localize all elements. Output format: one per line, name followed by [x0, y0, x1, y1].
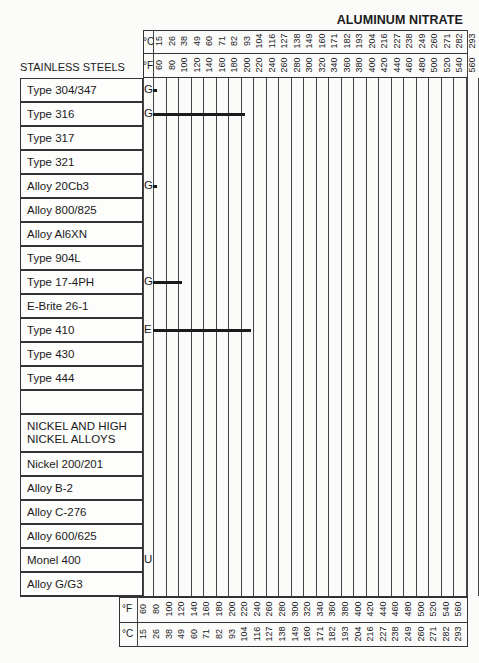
grid-line	[328, 78, 329, 596]
axis-tick: 380	[340, 597, 350, 621]
axis-tick: 138	[277, 622, 287, 646]
axis-tick: 560	[453, 597, 463, 621]
axis-tick: 15	[154, 29, 164, 53]
axis-tick: 182	[342, 29, 352, 53]
axis-tick: 160	[302, 622, 312, 646]
grid-line	[153, 78, 154, 596]
rating-bar	[153, 113, 245, 116]
rating-bar	[153, 89, 157, 92]
axis-tick: 160	[317, 29, 327, 53]
rating-letter: U	[144, 553, 152, 565]
axis-tick: 149	[290, 622, 300, 646]
axis-tick: 116	[267, 29, 277, 53]
axis-tick: 171	[315, 622, 325, 646]
axis-tick: 49	[192, 29, 202, 53]
axis-tick: 49	[176, 622, 186, 646]
axis-tick: 480	[417, 53, 427, 77]
axis-tick: 60	[138, 597, 148, 621]
axis-tick: 38	[164, 622, 174, 646]
axis-tick: 460	[390, 597, 400, 621]
grid-line	[216, 78, 217, 596]
axis-tick: 400	[353, 597, 363, 621]
axis-tick: 280	[277, 597, 287, 621]
axis-tick: 560	[467, 53, 477, 77]
grid-line	[228, 78, 229, 596]
axis-tick: 138	[292, 29, 302, 53]
grid-left-border	[143, 78, 144, 596]
axis-tick: 360	[327, 597, 337, 621]
axis-tick: 216	[379, 29, 389, 53]
axis-tick: 80	[151, 597, 161, 621]
axis-tick: 182	[327, 622, 337, 646]
axis-tick: 249	[417, 29, 427, 53]
axis-tick: 300	[304, 53, 314, 77]
axis-tick: 271	[428, 622, 438, 646]
row-label: Type 904L	[20, 246, 143, 270]
axis-tick: 260	[429, 29, 439, 53]
axis-tick: 293	[453, 622, 463, 646]
axis-tick: 60	[154, 53, 164, 77]
row-label: Type 17-4PH	[20, 270, 143, 294]
axis-tick: 82	[229, 29, 239, 53]
grid-line	[266, 78, 267, 596]
axis-tick: 500	[429, 53, 439, 77]
axis-tick: 204	[367, 29, 377, 53]
axis-tick: 520	[442, 53, 452, 77]
row-label: Type 430	[20, 342, 143, 366]
row-label: Alloy 800/825	[20, 198, 143, 222]
axis-tick: 320	[302, 597, 312, 621]
top-unit-c: °C	[143, 36, 154, 47]
axis-tick: 93	[242, 29, 252, 53]
axis-tick: 100	[179, 53, 189, 77]
grid-line	[366, 78, 367, 596]
axis-tick: 200	[227, 597, 237, 621]
grid-line	[341, 78, 342, 596]
row-label: E-Brite 26-1	[20, 294, 143, 318]
axis-tick: 240	[267, 53, 277, 77]
axis-tick: 440	[378, 597, 388, 621]
rating-letter: G	[144, 275, 153, 287]
axis-tick: 440	[392, 53, 402, 77]
axis-tick: 171	[329, 29, 339, 53]
grid-line	[316, 78, 317, 596]
axis-tick: 140	[204, 53, 214, 77]
axis-tick: 282	[441, 622, 451, 646]
axis-tick: 93	[227, 622, 237, 646]
axis-tick: 400	[367, 53, 377, 77]
axis-tick: 38	[179, 29, 189, 53]
axis-tick: 127	[279, 29, 289, 53]
row-label: Monel 400	[20, 548, 143, 572]
row-label	[20, 390, 143, 414]
axis-tick: 116	[252, 622, 262, 646]
grid-line	[416, 78, 417, 596]
row-label: Type 410	[20, 318, 143, 342]
grid-line	[441, 78, 442, 596]
axis-tick: 220	[254, 53, 264, 77]
axis-tick: 200	[242, 53, 252, 77]
axis-tick: 80	[167, 53, 177, 77]
axis-tick: 340	[315, 597, 325, 621]
axis-tick: 71	[201, 622, 211, 646]
rating-bar	[153, 281, 182, 284]
axis-tick: 420	[365, 597, 375, 621]
axis-tick: 340	[329, 53, 339, 77]
row-label: Type 321	[20, 150, 143, 174]
rating-letter: G	[144, 83, 153, 95]
axis-tick: 120	[192, 53, 202, 77]
row-label: Alloy B-2	[20, 476, 143, 500]
rating-bar	[153, 329, 251, 332]
row-label: Nickel 200/201	[20, 452, 143, 476]
axis-tick: 100	[164, 597, 174, 621]
axis-tick: 480	[403, 597, 413, 621]
axis-tick: 540	[441, 597, 451, 621]
row-label: Alloy 20Cb3	[20, 174, 143, 198]
axis-tick: 460	[404, 53, 414, 77]
axis-tick: 60	[204, 29, 214, 53]
grid-line	[291, 78, 292, 596]
row-label: NICKEL AND HIGH NICKEL ALLOYS	[20, 414, 143, 452]
grid-line	[241, 78, 242, 596]
axis-tick: 220	[239, 597, 249, 621]
axis-tick: 520	[428, 597, 438, 621]
axis-tick: 216	[365, 622, 375, 646]
grid-right-border	[467, 30, 468, 596]
